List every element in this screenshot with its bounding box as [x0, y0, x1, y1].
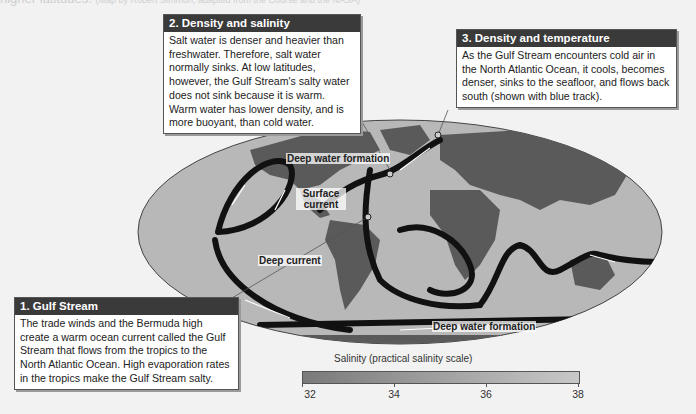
label-surface-current: Surface current: [296, 188, 346, 210]
tick-label-32: 32: [304, 388, 316, 400]
label-deep-water-formation-north: Deep water formation: [286, 153, 390, 164]
label-deep-current: Deep current: [258, 255, 322, 266]
callout-body: The trade winds and the Bermuda high cre…: [15, 315, 238, 389]
label-deep-water-formation-south: Deep water formation: [432, 321, 536, 332]
tick-36: [486, 383, 487, 387]
callout-density-temperature: 3. Density and temperature As the Gulf S…: [456, 29, 677, 108]
tick-32: [302, 383, 303, 387]
salinity-scale-bar: [302, 371, 580, 384]
tick-34: [394, 383, 395, 387]
marker-dot-1: [365, 214, 371, 220]
callout-density-salinity: 2. Density and salinity Salt water is de…: [163, 14, 361, 134]
tick-38: [578, 383, 579, 387]
tick-label-38: 38: [572, 388, 584, 400]
tick-label-34: 34: [388, 388, 400, 400]
callout-gulf-stream: 1. Gulf Stream The trade winds and the B…: [14, 297, 239, 390]
marker-dot-2: [387, 171, 393, 177]
callout-body: As the Gulf Stream encounters cold air i…: [457, 47, 676, 107]
callout-title: 1. Gulf Stream: [15, 298, 238, 315]
callout-title: 3. Density and temperature: [457, 30, 676, 47]
callout-title: 2. Density and salinity: [164, 15, 360, 32]
tick-label-36: 36: [480, 388, 492, 400]
salinity-scale-title: Salinity (practical salinity scale): [334, 353, 472, 364]
marker-dot-3: [435, 132, 441, 138]
callout-body: Salt water is denser and heavier than fr…: [164, 32, 360, 133]
